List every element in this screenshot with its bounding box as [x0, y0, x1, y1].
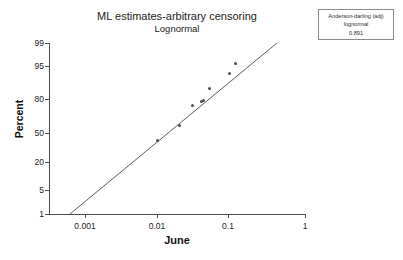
- data-point: [234, 62, 237, 65]
- x-axis-tick-label: 0.01: [133, 221, 181, 231]
- y-axis-tick-label: 95: [4, 62, 44, 71]
- y-axis-tick-label: 1: [4, 210, 44, 219]
- gof-statistic-value: 0.891: [319, 29, 393, 37]
- x-axis-tick-mark: [305, 214, 306, 218]
- y-axis-tick-mark: [45, 99, 49, 100]
- y-axis-tick-label: 99: [4, 39, 44, 48]
- data-point: [191, 104, 194, 107]
- y-axis-tick-mark: [45, 43, 49, 44]
- data-point: [208, 87, 211, 90]
- data-point: [228, 72, 231, 75]
- x-axis-line: [49, 214, 306, 215]
- x-axis-tick-label: 0.001: [61, 221, 109, 231]
- gof-statistic-name: Anderson-darling (adj): [319, 12, 393, 20]
- x-axis-tick-label: 0.1: [204, 221, 252, 231]
- y-axis-tick-mark: [45, 66, 49, 67]
- data-point: [156, 139, 159, 142]
- chart-subtitle: Lognormal: [49, 23, 305, 35]
- y-axis-tick-mark: [45, 133, 49, 134]
- data-point: [202, 99, 205, 102]
- x-axis-tick-mark: [228, 214, 229, 218]
- y-axis-tick-mark: [45, 162, 49, 163]
- page-title: ML estimates-arbitrary censoring: [49, 10, 305, 23]
- y-axis-line: [49, 43, 50, 215]
- gof-distribution-name: lognormal: [319, 20, 393, 28]
- x-axis-tick-mark: [157, 214, 158, 218]
- y-axis-tick-label: 5: [4, 186, 44, 195]
- y-axis-tick-label: 20: [4, 158, 44, 167]
- data-point: [178, 124, 181, 127]
- y-axis-title: Percent: [13, 84, 25, 154]
- y-axis-tick-mark: [45, 214, 49, 215]
- goodness-of-fit-box: Anderson-darling (adj) lognormal 0.891: [318, 9, 394, 40]
- x-axis-title: June: [49, 234, 305, 246]
- x-axis-tick-mark: [85, 214, 86, 218]
- probability-plot-figure: ML estimates-arbitrary censoring Lognorm…: [0, 0, 403, 260]
- y-axis-tick-mark: [45, 190, 49, 191]
- x-axis-tick-label: 1: [281, 221, 329, 231]
